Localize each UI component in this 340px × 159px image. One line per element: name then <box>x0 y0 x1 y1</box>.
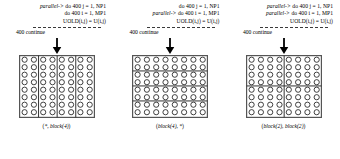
down-arrow-icon <box>114 38 227 54</box>
continue-row: 400 continue <box>0 25 113 38</box>
caption-close: ) <box>304 123 306 129</box>
grid-svg <box>132 55 208 118</box>
parallel-directive: parallel-> <box>40 3 64 9</box>
processor-grid <box>19 55 95 118</box>
processor-grid <box>246 55 322 118</box>
code-line-2-text: do 400 i = 1, MP1 <box>291 10 333 16</box>
code-line-2-text: do 400 i = 1, MP1 <box>178 10 220 16</box>
distribution-caption: (block(4), *) <box>156 122 184 130</box>
code-line-3: UOLD(i,j) = U(i,j) <box>114 18 220 25</box>
continue-label: 400 continue <box>16 29 45 36</box>
down-arrow-icon <box>227 38 340 54</box>
code-line-1: parallel-> do 400 j = 1, NP1 <box>0 3 106 10</box>
code-block: parallel-> do 400 j = 1, NP1 parallel-> … <box>227 0 340 25</box>
code-line-3: UOLD(i,j) = U(i,j) <box>227 18 333 25</box>
distribution-figure: parallel-> do 400 j = 1, NP1 do 400 i = … <box>0 0 340 159</box>
distribution-caption: (block(2), block(2)) <box>262 122 306 130</box>
code-line-2-text: do 400 i = 1, MP1 <box>64 10 106 16</box>
panel-block2-block2: parallel-> do 400 j = 1, NP1 parallel-> … <box>227 0 340 159</box>
dashed-separator <box>33 27 101 28</box>
caption-close: ) <box>69 123 71 129</box>
code-line-1-text: do 400 j = 1, NP1 <box>292 3 333 9</box>
code-line-2: do 400 i = 1, MP1 <box>0 10 106 17</box>
caption-second-dim: block(4) <box>50 123 69 129</box>
distribution-caption: (*, block(4)) <box>43 122 71 130</box>
panel-block4-star: do 400 j = 1, NP1 parallel-> do 400 i = … <box>114 0 227 159</box>
dashed-separator <box>260 27 328 28</box>
grid-svg <box>19 55 95 118</box>
processor-grid <box>132 55 208 118</box>
code-line-3: UOLD(i,j) = U(i,j) <box>0 18 106 25</box>
caption-first-dim: block(2) <box>263 123 282 129</box>
code-line-1: parallel-> do 400 j = 1, NP1 <box>227 3 333 10</box>
code-line-1: do 400 j = 1, NP1 <box>114 3 220 10</box>
grid-svg <box>246 55 322 118</box>
continue-label: 400 continue <box>243 29 272 36</box>
caption-close: ) <box>182 123 184 129</box>
caption-first-dim: block(4) <box>158 123 177 129</box>
down-arrow-icon <box>0 38 113 54</box>
code-line-1-text: do 400 j = 1, NP1 <box>179 3 220 9</box>
code-block: parallel-> do 400 j = 1, NP1 do 400 i = … <box>0 0 113 25</box>
continue-label: 400 continue <box>130 29 159 36</box>
continue-row: 400 continue <box>114 25 227 38</box>
caption-second-dim: block(2) <box>285 123 304 129</box>
parallel-directive: parallel-> <box>267 3 291 9</box>
panel-star-block4: parallel-> do 400 j = 1, NP1 do 400 i = … <box>0 0 113 159</box>
code-line-1-text: do 400 j = 1, NP1 <box>65 3 106 9</box>
parallel-directive: parallel-> <box>266 10 290 16</box>
code-block: do 400 j = 1, NP1 parallel-> do 400 i = … <box>114 0 227 25</box>
parallel-directive: parallel-> <box>153 10 177 16</box>
code-line-2: parallel-> do 400 i = 1, MP1 <box>114 10 220 17</box>
continue-row: 400 continue <box>227 25 340 38</box>
dashed-separator <box>147 27 215 28</box>
code-line-2: parallel-> do 400 i = 1, MP1 <box>227 10 333 17</box>
